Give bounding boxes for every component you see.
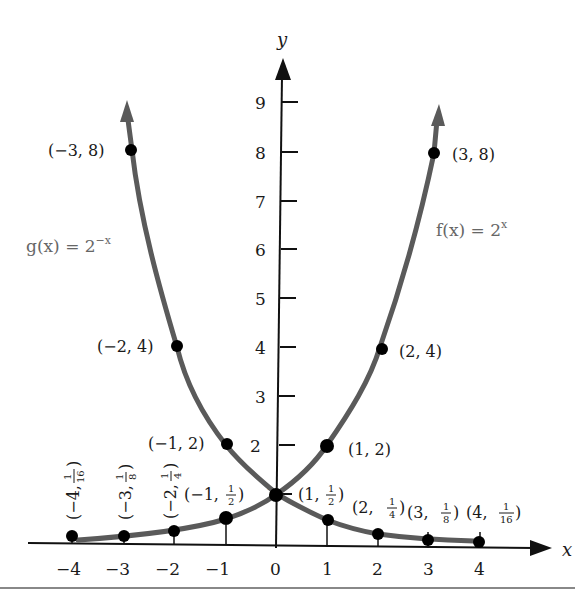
g-curve-arrow-icon (120, 100, 134, 122)
y-axis-label: y (276, 29, 288, 50)
svg-text:4: 4 (389, 509, 395, 520)
label-m2-4: (−2, 4) (97, 337, 153, 356)
svg-text:(1,: (1, (298, 485, 320, 504)
svg-text:4: 4 (172, 473, 183, 479)
svg-text:5: 5 (255, 289, 266, 309)
svg-text:8: 8 (443, 514, 449, 525)
svg-text:−1: −1 (205, 559, 230, 579)
svg-text:): ) (338, 485, 344, 504)
svg-text:7: 7 (255, 192, 266, 212)
exponential-chart: x y 9 8 7 6 5 4 3 2 1 (0, 0, 575, 594)
svg-text:1: 1 (62, 474, 73, 480)
svg-text:3: 3 (255, 387, 266, 407)
x-axis: x (28, 539, 572, 560)
label-4-sixteenth: (4, 1 16 ) (466, 501, 521, 525)
point-intersect-0-1 (269, 488, 283, 502)
point-g-m3 (125, 144, 137, 156)
svg-text:1: 1 (322, 559, 333, 579)
svg-text:−3: −3 (105, 559, 130, 579)
label-2-quarter: (2, 1 4 ) (352, 496, 405, 520)
svg-text:): ) (116, 464, 135, 470)
svg-text:2: 2 (372, 559, 383, 579)
svg-text:16: 16 (75, 470, 86, 483)
y-axis: y (275, 29, 291, 548)
svg-text:1: 1 (503, 501, 509, 512)
svg-text:): ) (161, 463, 180, 469)
svg-text:4: 4 (255, 338, 266, 358)
x-tick-labels: −4 −3 −2 −1 0 1 2 3 4 (56, 559, 485, 579)
f-function-label: f(x) = 2x (436, 218, 508, 240)
x-axis-arrow-icon (530, 540, 552, 556)
point-f-1 (320, 439, 334, 453)
svg-text:8: 8 (127, 474, 138, 480)
point-g-m1 (221, 438, 233, 450)
label-m1-half: (−1, 1 2 ) (184, 483, 244, 507)
svg-text:9: 9 (255, 93, 266, 113)
svg-text:1: 1 (443, 501, 449, 512)
point-g-1 (322, 514, 334, 526)
svg-text:(−2,: (−2, (161, 484, 180, 519)
y-tick-labels: 9 8 7 6 5 4 3 2 1 (250, 93, 277, 504)
svg-text:6: 6 (255, 240, 266, 260)
label-2-4: (2, 4) (399, 342, 442, 361)
svg-text:−4: −4 (56, 559, 81, 579)
svg-text:): ) (238, 485, 244, 504)
svg-text:(−1,: (−1, (184, 485, 219, 504)
svg-text:2: 2 (228, 496, 234, 507)
svg-text:1: 1 (389, 496, 395, 507)
point-g-2 (372, 528, 384, 540)
svg-text:2: 2 (328, 496, 334, 507)
svg-text:(−3,: (−3, (116, 485, 135, 520)
point-f-2 (376, 343, 388, 355)
svg-text:2: 2 (250, 436, 261, 456)
label-m3-eighth: (−3, 1 8 ) (114, 464, 138, 520)
x-axis-label: x (562, 539, 572, 560)
label-m2-quarter: (−2, 1 4 ) (159, 463, 183, 519)
point-f-m2 (168, 525, 180, 537)
point-g-3 (422, 534, 434, 546)
svg-text:): ) (64, 461, 83, 467)
point-g-m2 (171, 340, 183, 352)
svg-text:): ) (453, 503, 459, 522)
point-f-m1 (219, 511, 233, 525)
g-function-label: g(x) = 2−x (26, 234, 112, 256)
f-curve-arrow-icon (431, 104, 445, 126)
svg-text:(3,: (3, (407, 503, 429, 522)
label-3-8: (3, 8) (452, 145, 495, 164)
point-f-m3 (118, 530, 130, 542)
svg-text:): ) (515, 503, 521, 522)
label-3-eighth: (3, 1 8 ) (407, 501, 459, 525)
label-1-half: (1, 1 2 ) (298, 483, 344, 507)
svg-text:8: 8 (255, 143, 266, 163)
label-m4-sixteenth: (−4, 1 16 ) (62, 461, 86, 520)
point-f-3 (428, 147, 440, 159)
svg-text:1: 1 (328, 483, 334, 494)
label-m3-8: (−3, 8) (48, 141, 104, 160)
svg-text:16: 16 (500, 514, 513, 525)
svg-text:−2: −2 (155, 559, 180, 579)
point-f-m4 (66, 530, 78, 542)
label-m1-2: (−1, 2) (148, 434, 204, 453)
svg-text:0: 0 (270, 559, 281, 579)
svg-text:1: 1 (159, 473, 170, 479)
svg-text:): ) (399, 498, 405, 517)
y-axis-arrow-icon (275, 58, 291, 80)
point-g-4 (473, 536, 485, 548)
svg-text:1: 1 (114, 474, 125, 480)
svg-text:(4,: (4, (466, 503, 488, 522)
svg-text:1: 1 (228, 483, 234, 494)
label-1-2: (1, 2) (348, 440, 391, 459)
svg-text:4: 4 (474, 559, 485, 579)
svg-text:(−4,: (−4, (64, 485, 83, 520)
svg-text:3: 3 (423, 559, 434, 579)
svg-text:(2,: (2, (352, 498, 374, 517)
